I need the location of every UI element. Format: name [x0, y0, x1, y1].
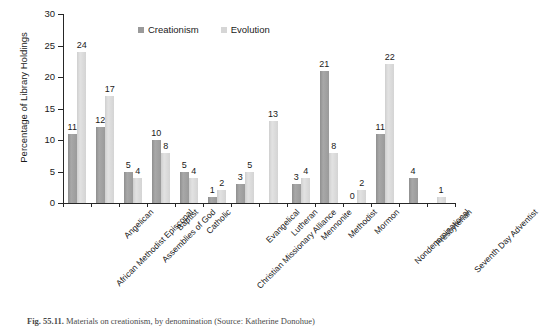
y-axis-tick-label: 20: [33, 72, 55, 82]
bar-evolution: [217, 190, 226, 203]
bar-evolution: [437, 197, 446, 203]
bar-value-label: 10: [148, 129, 164, 138]
y-axis-line: [63, 14, 64, 204]
x-axis-category-label: Angelican: [122, 207, 155, 240]
bar-evolution: [161, 153, 170, 203]
bar-value-label: 4: [130, 167, 146, 176]
legend-label: Evolution: [231, 24, 270, 35]
y-axis-tick-label: 10: [33, 135, 55, 145]
y-axis-tick: [58, 140, 63, 141]
bar-evolution: [357, 190, 366, 203]
bar-creationism: [124, 172, 133, 204]
y-axis-tick-label: 15: [33, 104, 55, 114]
chart-legend: CreationismEvolution: [138, 24, 270, 35]
x-axis-tick: [399, 203, 400, 207]
legend-entry-creationism: Creationism: [138, 24, 199, 35]
x-axis-category-label: Presbyterian: [433, 207, 474, 248]
legend-entry-evolution: Evolution: [221, 24, 270, 35]
x-axis-category-label: Seventh Day Adventist: [472, 207, 540, 275]
bar-value-label: 2: [354, 179, 370, 188]
x-axis-tick: [231, 203, 232, 207]
bar-value-label: 5: [242, 161, 258, 170]
x-axis-tick: [259, 203, 260, 207]
bar-value-label: 13: [265, 110, 281, 119]
bar-creationism: [180, 172, 189, 204]
x-axis-category-label: Christian Missionary Alliance: [255, 207, 339, 291]
bar-evolution: [105, 96, 114, 203]
y-axis-tick: [58, 46, 63, 47]
bar-creationism: [292, 184, 301, 203]
x-axis-tick: [175, 203, 176, 207]
y-axis-tick: [58, 109, 63, 110]
x-axis-tick: [119, 203, 120, 207]
bar-value-label: 4: [405, 167, 421, 176]
y-axis-tick: [58, 77, 63, 78]
figure-number: Fig. 55.11.: [27, 316, 64, 326]
x-axis-tick: [287, 203, 288, 207]
bar-creationism: [236, 184, 245, 203]
bar-evolution: [77, 52, 86, 203]
bar-value-label: 24: [74, 41, 90, 50]
figure-caption-text: Materials on creationism, by denominatio…: [66, 316, 315, 326]
y-axis-tick-label: 0: [33, 198, 55, 208]
bar-evolution: [245, 172, 254, 204]
bar-value-label: 1: [433, 186, 449, 195]
x-axis-tick: [455, 203, 456, 207]
y-axis-tick-label: 25: [33, 41, 55, 51]
bar-evolution: [329, 153, 338, 203]
bar-evolution: [385, 64, 394, 203]
bar-evolution: [301, 178, 310, 203]
bar-evolution: [269, 121, 278, 203]
bar-value-label: 21: [316, 60, 332, 69]
y-axis-tick: [58, 14, 63, 15]
bar-creationism: [376, 134, 385, 203]
x-axis-tick: [343, 203, 344, 207]
bar-value-label: 17: [102, 85, 118, 94]
legend-swatch-icon: [138, 27, 144, 33]
bar-evolution: [189, 178, 198, 203]
bar-evolution: [133, 178, 142, 203]
bar-value-label: 8: [158, 142, 174, 151]
bar-creationism: [409, 178, 418, 203]
bar-creationism: [208, 197, 217, 203]
y-axis-label: Percentage of Library Holdings: [18, 13, 29, 183]
bar-creationism: [320, 71, 329, 203]
legend-swatch-icon: [221, 27, 227, 33]
y-axis-tick-label: 5: [33, 167, 55, 177]
figure-caption: Fig. 55.11. Materials on creationism, by…: [27, 316, 315, 326]
y-axis-tick: [58, 172, 63, 173]
bar-creationism: [68, 134, 77, 203]
x-axis-tick: [203, 203, 204, 207]
x-axis-tick: [315, 203, 316, 207]
x-axis-tick: [63, 203, 64, 207]
legend-label: Creationism: [148, 24, 199, 35]
x-axis-tick: [427, 203, 428, 207]
bar-value-label: 8: [326, 142, 342, 151]
x-axis-tick: [91, 203, 92, 207]
bar-value-label: 2: [214, 179, 230, 188]
bar-creationism: [96, 127, 105, 203]
y-axis-tick-label: 30: [33, 9, 55, 19]
bar-value-label: 22: [382, 53, 398, 62]
bar-value-label: 4: [186, 167, 202, 176]
bar-value-label: 4: [298, 167, 314, 176]
